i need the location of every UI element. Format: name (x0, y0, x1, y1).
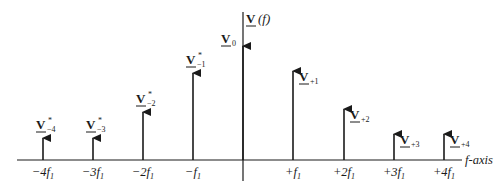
phasor-label: V*−4 (36, 116, 56, 134)
phasor-label: V+3 (400, 132, 420, 149)
tick-label: −f1 (185, 165, 201, 181)
svg-text:V: V (136, 91, 146, 106)
svg-text:V: V (246, 11, 256, 26)
svg-text:*: * (198, 51, 202, 60)
spectral-line-m3: V*−3−3f1 (82, 116, 106, 181)
svg-text:V: V (400, 132, 410, 147)
svg-text:V: V (350, 107, 360, 122)
svg-text:V: V (450, 132, 460, 147)
f-axis-label: f-axis (465, 153, 493, 167)
phasor-label: V+1 (299, 69, 319, 86)
spectral-line-p3: V+3+3f1 (383, 132, 420, 181)
svg-text:V: V (86, 117, 96, 132)
svg-text:V: V (36, 117, 46, 132)
spectrum-diagram: V (f) f-axis V*−4−4f1V*−3−3f1V*−2−2f1V*−… (0, 0, 503, 190)
svg-text:−1: −1 (197, 60, 206, 69)
svg-text:V: V (221, 31, 231, 46)
phasor-label: V*−2 (136, 90, 156, 108)
tick-label: +4f1 (433, 165, 455, 181)
phasor-label: V*−3 (86, 116, 106, 134)
svg-text:−3: −3 (97, 125, 106, 134)
svg-text:+1: +1 (310, 77, 319, 86)
svg-text:(f): (f) (258, 11, 270, 26)
spectral-line-m2: V*−2−2f1 (132, 90, 156, 181)
tick-label: −2f1 (132, 165, 154, 181)
spectral-line-p1: V+1+f1 (285, 69, 318, 181)
phasor-label: V+2 (350, 107, 370, 124)
svg-text:*: * (98, 116, 102, 125)
phasor-label: V+4 (450, 132, 470, 149)
spectral-line-m4: V*−4−4f1 (32, 116, 56, 181)
spectral-line-m1: V*−1−f1 (185, 51, 205, 181)
svg-text:+2: +2 (361, 115, 370, 124)
spectral-line-p2: V+2+2f1 (333, 107, 370, 181)
phasor-label: V*−1 (186, 51, 206, 69)
tick-label: +2f1 (333, 165, 355, 181)
v-axis-title: V (f) (246, 11, 270, 26)
svg-text:+3: +3 (411, 140, 420, 149)
tick-label: −3f1 (82, 165, 104, 181)
tick-label: −4f1 (32, 165, 54, 181)
svg-text:*: * (48, 116, 52, 125)
spectral-line-z0: V0 (221, 31, 243, 160)
spectral-lines: V*−4−4f1V*−3−3f1V*−2−2f1V*−1−f1V0V+1+f1V… (32, 31, 470, 181)
tick-label: +f1 (285, 165, 301, 181)
svg-text:+4: +4 (461, 140, 470, 149)
svg-text:V: V (186, 52, 196, 67)
phasor-label: V0 (221, 31, 236, 48)
svg-text:V: V (299, 69, 309, 84)
svg-text:−4: −4 (47, 125, 56, 134)
svg-text:*: * (148, 90, 152, 99)
tick-label: +3f1 (383, 165, 405, 181)
svg-text:−2: −2 (147, 99, 156, 108)
svg-text:0: 0 (232, 39, 236, 48)
